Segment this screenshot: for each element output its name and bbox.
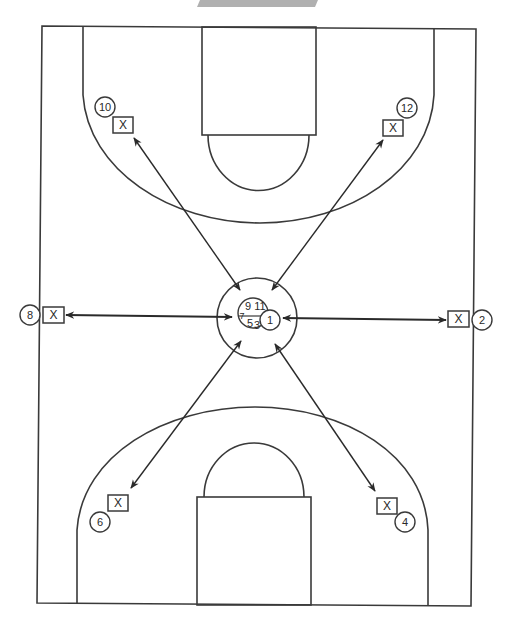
defender-marker: X bbox=[454, 312, 462, 326]
defender-bottom-right: X bbox=[377, 498, 397, 514]
player-label-3: 3 bbox=[254, 319, 260, 331]
player-number: 4 bbox=[402, 516, 408, 528]
ball-handler-label: 1 bbox=[267, 314, 273, 326]
top-three-point-arc bbox=[83, 26, 434, 223]
defender-left: X bbox=[43, 307, 64, 323]
player-number: 8 bbox=[27, 309, 33, 321]
defender-top-left: X bbox=[113, 117, 133, 133]
top-banner-shape bbox=[197, 0, 318, 7]
top-free-throw-circle bbox=[208, 135, 309, 191]
defender-marker: X bbox=[119, 118, 127, 132]
player-8: 8 bbox=[20, 305, 40, 325]
pass-arrow-to-10 bbox=[134, 138, 240, 290]
player-12: 12 bbox=[397, 98, 417, 118]
defender-marker: X bbox=[389, 121, 397, 135]
top-key bbox=[202, 27, 316, 135]
pass-arrow-to-8 bbox=[66, 315, 232, 317]
pass-arrow-to-12 bbox=[272, 140, 383, 290]
player-number: 6 bbox=[97, 516, 103, 528]
defender-marker: X bbox=[114, 496, 122, 510]
defender-marker: X bbox=[49, 308, 57, 322]
bottom-three-point-arc bbox=[77, 407, 428, 605]
pass-arrow-to-2 bbox=[283, 318, 446, 320]
defender-marker: X bbox=[383, 499, 391, 513]
player-number: 10 bbox=[99, 101, 111, 113]
pass-arrow-to-6 bbox=[131, 341, 241, 488]
center-player-cluster: 9 11 7 5 3 1 bbox=[238, 298, 280, 331]
bottom-free-throw-circle bbox=[204, 443, 304, 497]
player-label-7: 7 bbox=[239, 311, 244, 321]
player-number: 2 bbox=[479, 314, 485, 326]
bottom-key bbox=[197, 497, 311, 605]
defender-bottom-left: X bbox=[108, 495, 128, 511]
player-2: 2 bbox=[472, 310, 492, 330]
defender-right: X bbox=[448, 311, 469, 327]
pass-arrow-to-4 bbox=[275, 344, 375, 491]
player-4: 4 bbox=[395, 512, 415, 532]
player-label-11: 11 bbox=[254, 300, 265, 312]
player-label-5: 5 bbox=[247, 317, 253, 329]
player-10: 10 bbox=[95, 97, 115, 117]
player-6: 6 bbox=[90, 512, 110, 532]
defender-top-right: X bbox=[383, 120, 403, 136]
basketball-court-diagram: 9 11 7 5 3 1 X X X X X X 10 12 8 bbox=[0, 0, 515, 621]
player-number: 12 bbox=[401, 102, 413, 114]
player-label-9: 9 bbox=[245, 300, 251, 312]
